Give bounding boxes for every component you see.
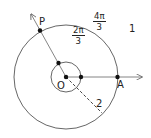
point-p (38, 28, 42, 32)
point-inner-ray (56, 61, 60, 65)
fraction-denominator: 3 (76, 36, 81, 46)
fraction-numerator: 2π (72, 26, 85, 36)
point-inner-axis (79, 75, 83, 79)
fraction-denominator: 3 (97, 22, 102, 32)
point-o (64, 75, 68, 79)
ray-op (31, 14, 66, 77)
fraction-4pi-over-3: 4π 3 (93, 12, 106, 31)
label-a: A (117, 80, 124, 90)
label-two: 2 (96, 99, 102, 109)
label-one: 1 (129, 24, 135, 34)
label-o: O (57, 81, 65, 91)
fraction-2pi-over-3: 2π 3 (72, 26, 85, 45)
circle-diagram (0, 0, 151, 138)
fraction-numerator: 4π (93, 12, 106, 22)
label-p: P (39, 17, 45, 27)
